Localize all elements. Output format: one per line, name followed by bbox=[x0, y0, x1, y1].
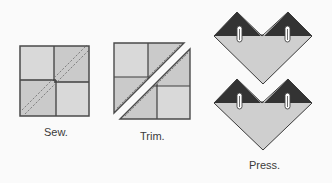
press-bottom-light-triangle bbox=[214, 103, 312, 150]
trim-diagram bbox=[114, 43, 190, 119]
sew-patch-bottom-right bbox=[56, 82, 89, 116]
sew-patch-top-left bbox=[20, 46, 54, 80]
press-top-light-triangle bbox=[214, 36, 312, 84]
step-label-sew: Sew. bbox=[44, 127, 68, 138]
sew-diagram bbox=[20, 45, 89, 116]
quilting-steps-diagram bbox=[0, 0, 332, 183]
press-unit-bottom bbox=[214, 79, 312, 150]
safety-pin-icon bbox=[285, 26, 290, 42]
step-label-trim: Trim. bbox=[140, 131, 165, 142]
safety-pin-icon bbox=[237, 93, 242, 109]
sew-patch-top-right bbox=[54, 46, 89, 82]
safety-pin-icon bbox=[285, 93, 290, 109]
step-label-press: Press. bbox=[249, 160, 280, 171]
safety-pin-icon bbox=[237, 26, 242, 42]
press-unit-top bbox=[214, 12, 312, 84]
sew-patch-bottom-left bbox=[20, 80, 56, 116]
